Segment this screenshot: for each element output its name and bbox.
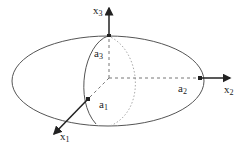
hidden-meridian-arc: [108, 36, 135, 126]
label-a3: a3: [94, 47, 103, 61]
semi-axis-a1-line: [88, 78, 109, 99]
label-a2: a2: [178, 82, 187, 96]
label-x3: x3: [93, 4, 103, 18]
ellipsoid-outline: [12, 36, 204, 126]
label-x1: x1: [60, 130, 70, 144]
label-a1: a1: [99, 98, 108, 112]
ellipsoid-diagram: x3 x2 x1 a3 a2 a1: [0, 0, 247, 145]
axis-x2-base: [198, 76, 202, 80]
axis-x1-arrow: [54, 99, 88, 134]
label-x2: x2: [224, 83, 234, 97]
axis-x1-base: [86, 97, 90, 101]
axis-x3-base: [107, 34, 111, 37]
